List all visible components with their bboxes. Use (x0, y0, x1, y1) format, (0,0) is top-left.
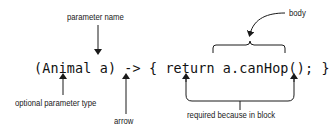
body-arrow (250, 13, 285, 34)
parameter-name-label: parameter name (67, 12, 124, 22)
optional-parameter-type-label: optional parameter type (15, 98, 96, 108)
required-bracket (186, 77, 294, 101)
arrow-label: arrow (114, 116, 133, 126)
body-label: body (289, 8, 306, 18)
body-brace (213, 41, 285, 53)
lambda-code: (Animal a) -> { return a.canHop(); } (34, 61, 330, 76)
required-because-in-block-label: required because in block (187, 110, 275, 120)
